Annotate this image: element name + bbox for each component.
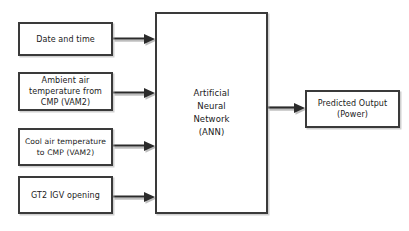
edge-cool-to-ann <box>113 141 155 151</box>
node-label: Date and time <box>35 34 96 45</box>
model-node-artificial-neural-network: Artificial Neural Network (ANN) <box>155 12 268 214</box>
node-label: GT2 IGV opening <box>30 190 101 201</box>
input-node-date-and-time: Date and time <box>18 22 113 56</box>
block-diagram-canvas: Date and time Ambient air temperature fr… <box>0 0 409 231</box>
edge-ambient-to-ann <box>113 88 155 98</box>
node-label: Cool air temperature to CMP (VAM2) <box>24 136 107 158</box>
edge-ann-to-output <box>268 103 305 113</box>
edge-gt2-to-ann <box>113 192 155 202</box>
node-label: Artificial Neural Network (ANN) <box>192 87 230 139</box>
output-node-predicted-output: Predicted Output (Power) <box>305 90 400 128</box>
edge-date-to-ann <box>113 34 155 44</box>
input-node-ambient-air-temperature: Ambient air temperature from CMP (VAM2) <box>18 72 113 111</box>
input-node-cool-air-temperature: Cool air temperature to CMP (VAM2) <box>18 128 113 166</box>
node-label: Ambient air temperature from CMP (VAM2) <box>28 75 103 108</box>
input-node-gt2-igv-opening: GT2 IGV opening <box>18 176 113 214</box>
node-label: Predicted Output (Power) <box>317 98 389 120</box>
